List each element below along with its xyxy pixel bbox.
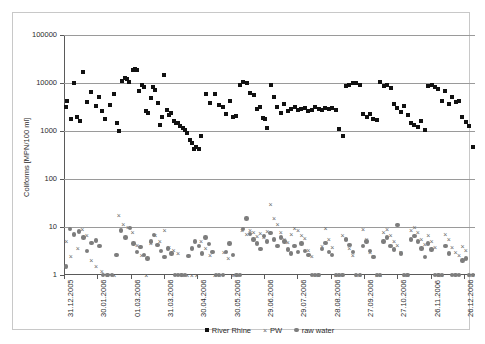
data-point bbox=[228, 99, 232, 103]
data-point bbox=[340, 273, 344, 277]
data-point bbox=[446, 237, 451, 242]
x-tick-label: 29.07.2006 bbox=[300, 279, 308, 317]
data-point bbox=[81, 70, 85, 74]
data-point bbox=[265, 126, 269, 130]
data-point bbox=[282, 102, 286, 106]
gridline bbox=[64, 131, 475, 132]
data-point bbox=[471, 273, 475, 277]
data-point bbox=[238, 273, 242, 277]
legend-item[interactable]: raw water bbox=[294, 326, 334, 335]
data-point bbox=[208, 101, 212, 105]
data-point bbox=[193, 239, 197, 243]
data-point bbox=[68, 254, 73, 259]
data-point bbox=[97, 244, 101, 248]
data-point bbox=[234, 114, 238, 118]
data-point bbox=[381, 239, 385, 243]
data-point bbox=[306, 253, 310, 257]
data-point bbox=[197, 147, 201, 151]
data-point bbox=[123, 235, 127, 239]
data-point bbox=[426, 233, 431, 238]
data-point bbox=[244, 216, 248, 220]
data-point bbox=[68, 227, 72, 231]
data-point bbox=[416, 125, 420, 129]
x-tick-label: 01.03.2006 bbox=[134, 279, 142, 317]
x-tick-label: 27.10.2006 bbox=[400, 279, 408, 317]
data-point bbox=[385, 235, 389, 239]
data-point bbox=[361, 244, 365, 248]
legend-item[interactable]: River Rhine bbox=[205, 326, 251, 335]
data-point bbox=[268, 202, 273, 207]
data-point bbox=[368, 112, 372, 116]
y-tick-mark bbox=[60, 227, 64, 228]
data-point bbox=[69, 117, 73, 121]
data-point bbox=[213, 92, 217, 96]
data-point bbox=[97, 95, 101, 99]
data-point bbox=[457, 99, 461, 103]
data-point bbox=[224, 250, 228, 254]
data-point bbox=[120, 79, 124, 83]
data-point bbox=[282, 239, 286, 243]
legend-item[interactable]: ×PW bbox=[263, 326, 282, 335]
data-point bbox=[429, 247, 433, 251]
data-point bbox=[100, 109, 104, 113]
data-point bbox=[299, 241, 303, 245]
data-point bbox=[368, 249, 372, 253]
data-point bbox=[436, 87, 440, 91]
data-point bbox=[450, 95, 454, 99]
x-tick-label: 30.01.2006 bbox=[100, 279, 108, 317]
data-point bbox=[262, 234, 266, 238]
x-tick-mark bbox=[264, 275, 265, 279]
data-point bbox=[149, 96, 153, 100]
data-point bbox=[245, 81, 249, 85]
data-point bbox=[296, 250, 300, 254]
data-point bbox=[399, 110, 403, 114]
data-point bbox=[221, 273, 225, 277]
y-tick-label: 1000 bbox=[27, 127, 57, 135]
data-point bbox=[323, 241, 327, 245]
data-point bbox=[399, 251, 403, 255]
data-point bbox=[402, 104, 406, 108]
data-point bbox=[200, 251, 204, 255]
data-point bbox=[160, 115, 164, 119]
data-point bbox=[323, 226, 328, 231]
data-point bbox=[207, 242, 211, 246]
data-point bbox=[385, 227, 390, 232]
data-point bbox=[221, 105, 225, 109]
x-tick-mark bbox=[131, 275, 132, 279]
y-tick-label: 100 bbox=[27, 175, 57, 183]
data-point bbox=[169, 251, 173, 255]
legend-label: River Rhine bbox=[212, 326, 251, 335]
data-point bbox=[169, 111, 173, 115]
data-point bbox=[149, 239, 153, 243]
data-point bbox=[77, 229, 81, 233]
data-point bbox=[275, 105, 279, 109]
chart-page: Coliforms [MPN/100 ml] 10000010000100010… bbox=[0, 0, 485, 344]
y-tick-mark bbox=[60, 35, 64, 36]
data-point bbox=[72, 232, 76, 236]
data-point bbox=[423, 255, 427, 259]
data-point bbox=[334, 108, 338, 112]
data-point bbox=[302, 236, 307, 241]
data-point bbox=[203, 235, 207, 239]
data-point bbox=[464, 120, 468, 124]
data-point bbox=[320, 247, 324, 251]
data-point bbox=[258, 247, 262, 251]
data-point bbox=[269, 83, 273, 87]
data-point bbox=[85, 249, 89, 253]
data-point bbox=[162, 255, 166, 259]
data-point bbox=[119, 228, 123, 232]
data-point bbox=[330, 253, 334, 257]
circle-marker-icon bbox=[294, 328, 299, 333]
data-point bbox=[190, 141, 194, 145]
data-point bbox=[395, 223, 399, 227]
data-point bbox=[155, 243, 159, 247]
data-point bbox=[158, 123, 162, 127]
data-point bbox=[364, 239, 368, 243]
data-point bbox=[463, 248, 468, 253]
data-point bbox=[375, 118, 379, 122]
data-point bbox=[197, 244, 201, 248]
data-point bbox=[457, 273, 461, 277]
data-point bbox=[440, 99, 444, 103]
data-point bbox=[131, 241, 135, 245]
data-point bbox=[226, 256, 231, 261]
